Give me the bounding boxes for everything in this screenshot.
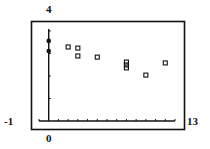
square-point [66,45,70,49]
filled-point [46,39,51,44]
square-point [76,46,80,50]
scatter-plot [0,0,210,149]
filled-point [46,49,51,54]
plot-frame [32,22,185,130]
square-point [163,61,167,65]
square-point [144,73,148,77]
square-point [95,55,99,59]
square-point [76,54,80,58]
